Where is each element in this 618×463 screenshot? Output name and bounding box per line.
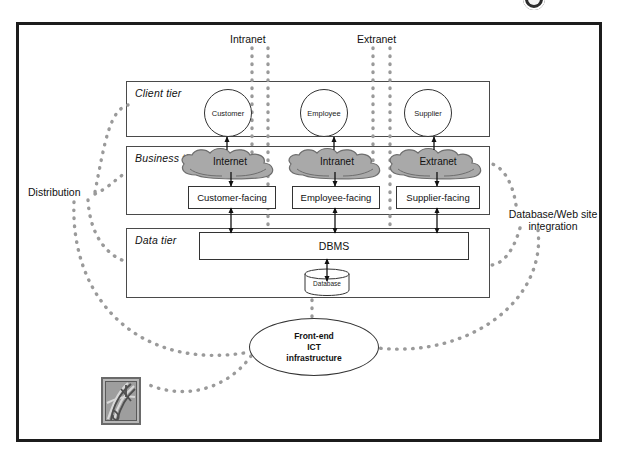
- component-employee-facing[interactable]: Employee-facing: [292, 186, 380, 209]
- database-cylinder[interactable]: Database: [304, 268, 350, 296]
- component-customer-facing[interactable]: Customer-facing: [188, 186, 276, 209]
- front-end-ict-line1: Front-end: [294, 331, 334, 342]
- cloud-intranet-label: Intranet: [285, 156, 389, 167]
- front-end-ict-line3: infrastructure: [286, 353, 341, 364]
- actor-employee-label: Employee: [307, 109, 340, 118]
- cloud-intranet[interactable]: Intranet: [285, 147, 389, 181]
- database-label: Database: [304, 280, 350, 287]
- label-distribution: Distribution: [28, 186, 81, 198]
- label-database-web-integration: Database/Web site integration: [497, 208, 609, 232]
- cloud-internet[interactable]: Internet: [178, 147, 282, 181]
- component-supplier-facing-label: Supplier-facing: [406, 192, 469, 203]
- actor-customer[interactable]: Customer: [204, 89, 252, 137]
- actor-supplier-label: Supplier: [414, 109, 442, 118]
- node-front-end-ict[interactable]: Front-end ICT infrastructure: [249, 318, 379, 376]
- component-employee-facing-label: Employee-facing: [301, 192, 372, 203]
- component-customer-facing-label: Customer-facing: [197, 192, 267, 203]
- component-dbms[interactable]: DBMS: [199, 232, 469, 260]
- component-supplier-facing[interactable]: Supplier-facing: [396, 186, 480, 209]
- label-extranet-top: Extranet: [357, 33, 396, 45]
- actor-supplier[interactable]: Supplier: [404, 89, 452, 137]
- component-dbms-label: DBMS: [319, 240, 349, 252]
- tier-data-label: Data tier: [135, 234, 176, 246]
- actor-customer-label: Customer: [212, 109, 245, 118]
- figure-canvas: Client tier Business tier Data tier Cust…: [0, 0, 618, 463]
- tier-client-label: Client tier: [135, 87, 182, 99]
- cloud-internet-label: Internet: [178, 156, 282, 167]
- decorative-artwork-icon: [101, 377, 141, 425]
- cloud-extranet-label: Extranet: [386, 156, 490, 167]
- actor-employee[interactable]: Employee: [300, 89, 348, 137]
- circle-badge-icon: [523, 0, 545, 10]
- label-intranet-top: Intranet: [230, 33, 266, 45]
- front-end-ict-line2: ICT: [307, 342, 321, 353]
- cloud-extranet[interactable]: Extranet: [386, 147, 490, 181]
